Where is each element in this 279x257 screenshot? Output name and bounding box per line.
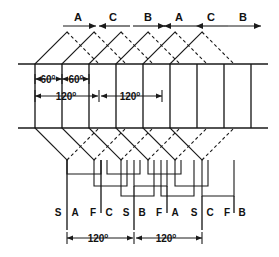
- lower-coil-dashed-legs: [67, 128, 234, 160]
- phase-arrow-b1: [133, 23, 165, 29]
- interconnect-bus-5: [134, 160, 167, 186]
- phase-label-b1: B: [144, 11, 152, 23]
- upper-coil-dashed-legs: [67, 32, 234, 64]
- interconnect-bus-8: [161, 160, 194, 196]
- terminal-label-a-2: A: [171, 207, 178, 218]
- phase-label-a2: A: [175, 11, 183, 23]
- terminal-label-s-c: S: [191, 207, 198, 218]
- phase-arrow-a2: [164, 23, 196, 29]
- angle-label-120-right: 120o: [120, 90, 141, 102]
- interconnect-bus-6: [175, 160, 208, 186]
- interconnect-bus-9: [202, 160, 234, 196]
- phase-arrow-b2: [228, 23, 261, 29]
- winding-diagram-canvas: A C B A C B: [0, 0, 279, 257]
- phase-arrow-c1: [99, 23, 130, 29]
- terminal-label-f-c: F: [90, 207, 96, 218]
- angle-label-60-right: 60o: [68, 73, 83, 85]
- winding-diagram-figure: A C B A C B: [0, 0, 279, 257]
- bottom-dim-label-left: 120o: [88, 232, 109, 244]
- bottom-dimensions: 120o 120o: [67, 232, 202, 245]
- phase-arrow-c2: [196, 23, 228, 29]
- interconnect-bus-2: [107, 160, 140, 174]
- interconnect-bus-7: [121, 160, 154, 196]
- terminal-label-c-1: C: [105, 207, 112, 218]
- interconnect-bus-1: [67, 160, 101, 174]
- terminal-label-f-a: F: [156, 207, 162, 218]
- terminal-label-f-b: F: [224, 207, 230, 218]
- upper-coil-solid-legs: [35, 32, 202, 64]
- phase-labels: A C B A C B: [74, 11, 247, 23]
- phase-label-a1: A: [74, 11, 82, 23]
- phase-label-arrows: [63, 23, 261, 29]
- terminal-label-c-2: C: [206, 207, 213, 218]
- bottom-dim-label-right: 120o: [156, 232, 177, 244]
- lower-coil-solid-legs: [35, 128, 202, 160]
- terminal-labels: S A F C S B F A S C F B: [55, 207, 246, 218]
- coil-group-interconnections: [67, 160, 234, 196]
- terminal-label-s-b: S: [123, 207, 130, 218]
- phase-label-b2: B: [239, 11, 247, 23]
- interconnect-bus-4: [94, 160, 127, 186]
- terminal-label-b-1: B: [138, 207, 145, 218]
- angle-label-60-left: 60o: [40, 73, 55, 85]
- terminal-leads: [67, 160, 234, 230]
- terminal-label-b-2: B: [238, 207, 245, 218]
- interconnect-bus-3: [148, 160, 181, 174]
- terminal-label-s-a: S: [55, 207, 62, 218]
- phase-label-c1: C: [109, 11, 117, 23]
- phase-arrow-a1: [63, 23, 96, 29]
- terminal-label-a-1: A: [71, 207, 78, 218]
- phase-label-c2: C: [207, 11, 215, 23]
- angle-label-120-left: 120o: [56, 90, 77, 102]
